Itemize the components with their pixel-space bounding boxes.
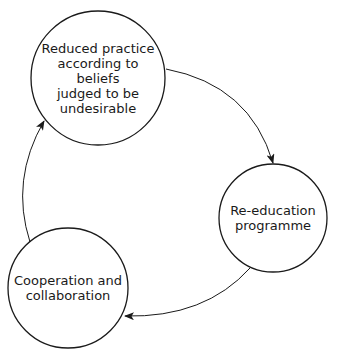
label-line: Cooperation and: [14, 273, 122, 288]
label-line: undesirable: [38, 101, 158, 116]
arrow-cooperation-to-reduced: [23, 121, 44, 242]
node-label-re-education: Re-education programme: [223, 193, 323, 243]
label-line: Re-education: [230, 203, 316, 218]
node-label-reduced-practice: Reduced practice according to beliefs ju…: [38, 28, 158, 128]
arrow-reduced-to-reeducation: [166, 69, 273, 163]
label-line: collaboration: [14, 288, 122, 303]
label-line: Reduced practice: [38, 41, 158, 56]
node-label-cooperation: Cooperation and collaboration: [13, 271, 123, 305]
label-line: programme: [230, 218, 316, 233]
label-line: judged to be: [38, 86, 158, 101]
arrow-reeducation-to-cooperation: [125, 268, 250, 316]
label-line: according to beliefs: [38, 56, 158, 86]
